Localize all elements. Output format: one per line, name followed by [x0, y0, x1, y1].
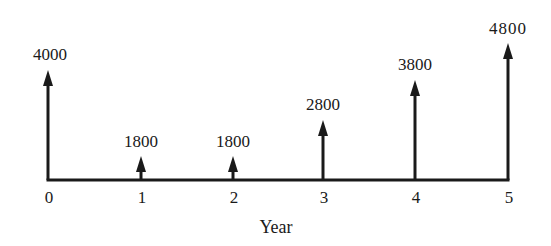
arrow-head-icon: [318, 120, 328, 136]
cash-flow-arrow-year-1: [136, 156, 146, 180]
amount-label-year-0: 4000: [33, 46, 67, 63]
cash-flow-diagram: 400018001800280038004800 012345 Year: [0, 0, 551, 246]
cash-flow-arrow-year-4: [410, 80, 420, 180]
amount-label-year-2: 1800: [216, 133, 250, 150]
amount-label-year-4: 3800: [398, 56, 432, 73]
cash-flow-arrow-year-5: [503, 43, 513, 180]
cash-flow-svg: [0, 0, 551, 246]
arrow-head-icon: [228, 156, 238, 172]
arrow-head-icon: [503, 43, 513, 59]
arrow-head-icon: [410, 80, 420, 96]
year-tick-4: 4: [412, 189, 421, 206]
x-axis-title: Year: [259, 218, 292, 236]
year-tick-3: 3: [320, 189, 329, 206]
amount-label-year-5: 4800: [489, 20, 527, 37]
year-tick-2: 2: [230, 189, 239, 206]
year-tick-5: 5: [505, 189, 514, 206]
arrow-head-icon: [136, 156, 146, 172]
year-tick-0: 0: [45, 189, 54, 206]
arrow-head-icon: [43, 70, 53, 86]
cash-flow-arrow-year-0: [43, 70, 53, 180]
amount-label-year-1: 1800: [124, 133, 158, 150]
cash-flow-arrows: [43, 43, 513, 180]
year-tick-1: 1: [138, 189, 147, 206]
amount-label-year-3: 2800: [306, 96, 340, 113]
cash-flow-arrow-year-2: [228, 156, 238, 180]
cash-flow-arrow-year-3: [318, 120, 328, 180]
